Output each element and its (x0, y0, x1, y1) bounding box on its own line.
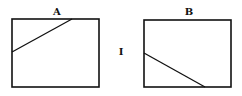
panel-b-line (144, 53, 205, 87)
panel-a-box (12, 19, 99, 87)
panel-a-label: A (53, 7, 61, 17)
center-mark: I (119, 47, 124, 57)
panel-b-label: B (185, 7, 193, 17)
panel-a-line (12, 19, 72, 52)
